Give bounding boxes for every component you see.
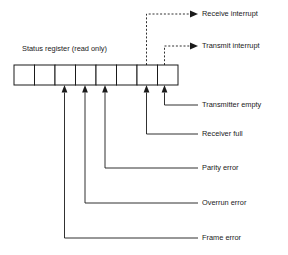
register-bit-cell-3 [76, 65, 97, 85]
parity-error-label: Parity error [202, 163, 239, 172]
register-bit-cell-7 [158, 65, 179, 85]
register-bit-cell-5 [117, 65, 138, 85]
callout-transmitter-empty: Transmitter empty [162, 85, 262, 109]
parity-error-leader [105, 93, 198, 169]
callout-receiver-full: Receiver full [144, 85, 243, 138]
register-bit-cell-0 [14, 65, 35, 85]
register-bit-cell-2 [55, 65, 76, 85]
overrun-error-label: Overrun error [202, 198, 247, 207]
status-register-diagram: Status register (read only) Receive inte… [0, 0, 288, 255]
transmitter-empty-leader [165, 93, 199, 106]
transmitter-empty-arrow-icon [162, 85, 168, 93]
overrun-error-leader [85, 93, 198, 204]
frame-error-leader [65, 93, 199, 239]
parity-error-arrow-icon [102, 85, 108, 93]
frame-error-label: Frame error [202, 233, 242, 242]
receiver-full-label: Receiver full [202, 129, 243, 138]
callout-receive-interrupt: Receive interrupt [147, 9, 258, 65]
receive-interrupt-arrow-icon [190, 11, 198, 18]
register-title: Status register (read only) [22, 44, 107, 53]
register-bit-cell-1 [35, 65, 56, 85]
frame-error-arrow-icon [62, 85, 68, 93]
callout-transmit-interrupt: Transmit interrupt [165, 41, 260, 65]
receive-interrupt-label: Receive interrupt [202, 9, 258, 18]
status-register-box [14, 65, 178, 85]
receiver-full-leader [147, 93, 199, 135]
transmit-interrupt-arrow-icon [190, 43, 198, 50]
transmit-interrupt-leader [165, 46, 191, 65]
overrun-error-arrow-icon [82, 85, 88, 93]
receiver-full-arrow-icon [144, 85, 150, 93]
transmit-interrupt-label: Transmit interrupt [202, 41, 260, 50]
diagram-canvas: Status register (read only) Receive inte… [0, 0, 288, 255]
register-bit-cell-4 [96, 65, 117, 85]
transmitter-empty-label: Transmitter empty [202, 100, 262, 109]
register-bit-cell-6 [137, 65, 158, 85]
receive-interrupt-leader [147, 14, 191, 65]
